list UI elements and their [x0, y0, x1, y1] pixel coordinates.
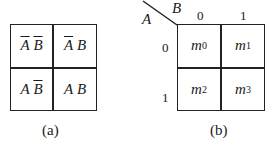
kmap-b-cell-m0: m0	[177, 24, 221, 67]
kmap-b-col-header-0: 0	[197, 8, 204, 24]
kmap-b-row-header-1: 1	[162, 90, 169, 106]
kmap-b-col-header-1: 1	[240, 8, 247, 24]
kmap-b-row-var: A	[142, 11, 151, 28]
kmap-b-row-header-0: 0	[162, 40, 169, 56]
caption-b: (b)	[210, 122, 228, 139]
kmap-b-cell-m2: m2	[177, 67, 221, 111]
kmap-b-col-var: B	[172, 0, 181, 17]
kmap-b-cell-m1: m1	[221, 24, 265, 67]
kmap-b-cell-m3: m3	[221, 67, 265, 111]
